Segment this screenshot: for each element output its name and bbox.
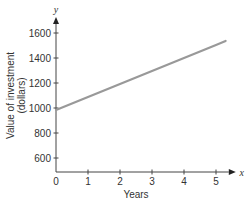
x-axis-name: x (239, 167, 245, 178)
x-axis: x012345 (53, 167, 244, 188)
axis-labels: YearsValue of investment(dollars) (5, 52, 149, 200)
y-tick-label: 800 (34, 128, 51, 139)
x-tick-label: 2 (117, 176, 123, 187)
data-series (56, 41, 226, 110)
x-tick-label: 3 (149, 176, 155, 187)
y-tick-label: 1600 (29, 28, 52, 39)
y-tick-label: 1400 (29, 53, 52, 64)
x-tick-label: 4 (181, 176, 187, 187)
x-axis-label: Years (123, 189, 148, 200)
y-axis: y6008001000120014001600 (29, 4, 59, 172)
line-chart: y6008001000120014001600 x012345 YearsVal… (0, 0, 251, 203)
y-axis-name: y (53, 4, 59, 15)
investment-line (56, 41, 226, 110)
x-tick-label: 5 (213, 176, 219, 187)
x-tick-label: 0 (53, 176, 59, 187)
x-tick-label: 1 (85, 176, 91, 187)
y-axis-label-line-1: Value of investment (5, 52, 16, 139)
y-axis-label: Value of investment(dollars) (5, 52, 27, 139)
y-tick-label: 1000 (29, 103, 52, 114)
x-axis-arrow-icon (229, 169, 236, 175)
y-tick-label: 600 (34, 153, 51, 164)
y-axis-arrow-icon (53, 17, 59, 24)
y-axis-label-line-2: (dollars) (16, 77, 27, 113)
y-tick-label: 1200 (29, 78, 52, 89)
